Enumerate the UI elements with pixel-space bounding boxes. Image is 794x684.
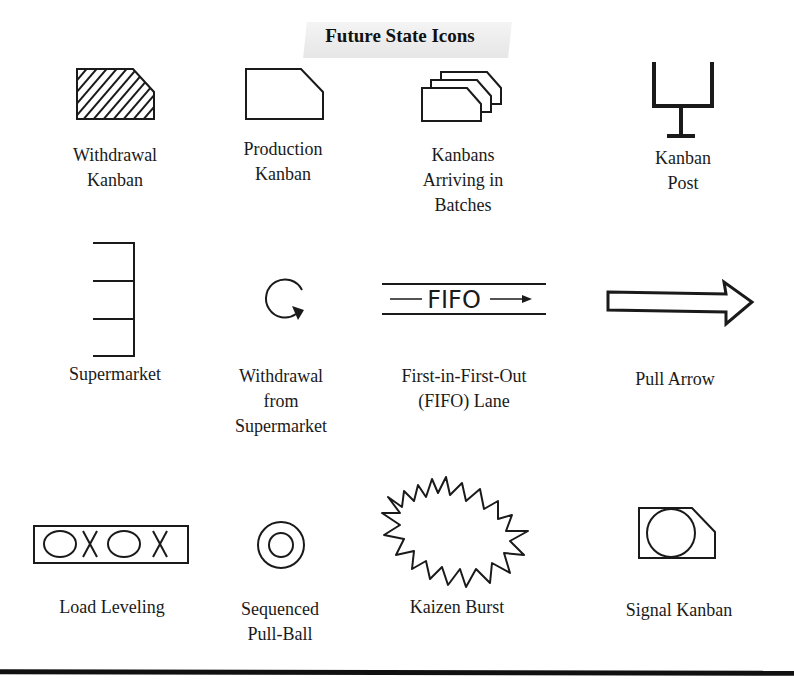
load-leveling-label: Load Leveling [37,595,187,620]
withdrawal-from-supermarket-label: Withdrawal from Supermarket [206,364,356,439]
kanbans-arriving-in-batches-icon [421,70,503,124]
kanban-post-label: Kanban Post [608,146,758,196]
kanbans-arriving-in-batches-label: Kanbans Arriving in Batches [388,143,538,218]
sequenced-pull-ball-label: Sequenced Pull-Ball [205,597,355,647]
fifo-lane-icon: FIFO [382,282,548,316]
withdrawal-kanban-icon [76,68,156,120]
pull-arrow-label: Pull Arrow [600,367,750,392]
pull-arrow-icon [606,280,754,328]
withdrawal-from-supermarket-icon [260,278,306,324]
load-leveling-icon [33,525,191,565]
signal-kanban-label: Signal Kanban [604,598,754,623]
production-kanban-icon [245,68,325,120]
production-kanban-label: Production Kanban [208,137,358,187]
svg-text:FIFO: FIFO [427,286,481,314]
kaizen-burst-label: Kaizen Burst [382,595,532,620]
supermarket-label: Supermarket [40,362,190,387]
sequenced-pull-ball-icon [255,519,307,571]
bottom-divider [0,669,794,675]
kaizen-burst-icon [380,475,540,591]
supermarket-icon [93,242,137,358]
page-title: Future State Icons [300,25,500,47]
kanban-post-icon [650,62,714,140]
withdrawal-kanban-label: Withdrawal Kanban [40,143,190,193]
signal-kanban-icon [638,506,718,560]
fifo-lane-label: First-in-First-Out (FIFO) Lane [374,364,554,414]
